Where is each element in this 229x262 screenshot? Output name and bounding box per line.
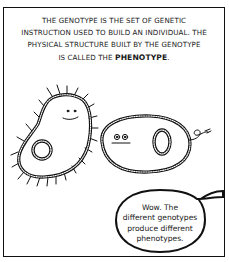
hairy-bacterium-illustration: [11, 85, 98, 186]
bubble-line-1: Wow. The: [116, 203, 204, 213]
flagellated-cell-illustration: [102, 116, 211, 172]
bubble-line-2: different genotypes: [116, 213, 204, 223]
cell-membrane: [102, 116, 190, 172]
speech-bubble-text: Wow. The different genotypes produce dif…: [116, 203, 204, 245]
smiling-face-icon: [63, 110, 78, 119]
bubble-line-4: phenotypes.: [116, 234, 204, 244]
bubble-line-3: produce different: [116, 224, 204, 234]
neutral-face-icon: [112, 134, 130, 143]
nucleus-icon: [154, 130, 170, 154]
flagellum-icon: [189, 129, 211, 140]
nucleus-icon: [33, 141, 51, 159]
